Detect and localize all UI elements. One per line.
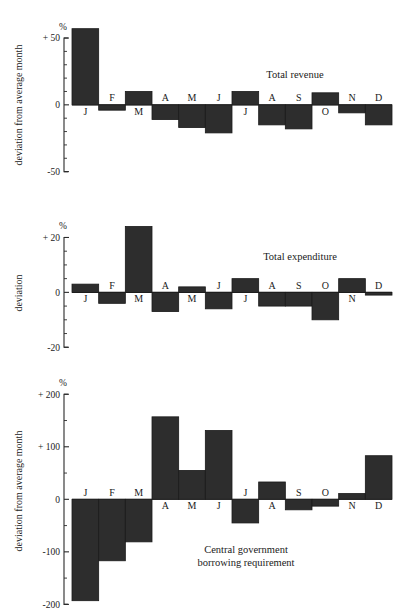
bar-0-M-2 [125, 91, 152, 104]
month-label-1-9: O [322, 280, 329, 291]
bar-0-D-11 [365, 105, 392, 125]
month-label-2-11: D [375, 500, 382, 511]
chart-panel-total-revenue: + 500-50%JFMAMJJASONDTotal revenuedeviat… [0, 0, 400, 205]
bar-0-N-10 [339, 105, 366, 113]
y-tick-label-2-0: + 200 [38, 390, 60, 400]
y-tick-label-2-3: -100 [43, 547, 61, 557]
month-label-2-10: N [348, 500, 355, 511]
y-tick-label-1-0: + 20 [43, 233, 60, 243]
bar-2-O-9 [312, 499, 339, 506]
chart-panel-borrowing-requirement: + 200+ 1000-100-200%JFMAMJJASONDCentral … [0, 363, 400, 616]
month-label-0-8: S [296, 92, 302, 103]
month-label-0-3: A [162, 92, 170, 103]
chart-svg-0: + 500-50%JFMAMJJASONDTotal revenuedeviat… [0, 0, 400, 205]
bar-1-A-3 [152, 292, 179, 311]
month-label-2-5: J [217, 500, 221, 511]
month-label-1-0: J [83, 293, 87, 304]
bar-0-O-9 [312, 93, 339, 105]
bar-1-N-10 [339, 279, 366, 293]
bar-2-F-1 [99, 499, 126, 560]
month-label-1-7: A [268, 280, 276, 291]
chart-panel-total-expenditure: + 200-20%JFMAMJJASONDTotal expenditurede… [0, 205, 400, 363]
month-label-2-4: M [188, 500, 197, 511]
bar-1-S-8 [285, 292, 312, 306]
bar-1-O-9 [312, 292, 339, 319]
y-tick-label-1-2: -20 [47, 343, 60, 353]
month-label-1-10: N [348, 293, 355, 304]
bar-2-A-7 [259, 482, 286, 499]
figure-bar-chart-triptych: + 500-50%JFMAMJJASONDTotal revenuedeviat… [0, 0, 400, 616]
y-tick-label-0-1: 0 [55, 100, 60, 110]
y-tick-label-0-0: + 50 [43, 33, 60, 43]
y-tick-label-2-2: 0 [55, 495, 60, 505]
month-label-1-1: F [109, 280, 115, 291]
bar-1-M-2 [125, 226, 152, 292]
bar-2-M-2 [125, 499, 152, 542]
bar-0-J-6 [232, 91, 259, 104]
month-label-1-2: M [134, 293, 143, 304]
y-tick-label-1-1: 0 [55, 288, 60, 298]
month-label-0-1: F [109, 92, 115, 103]
month-label-2-2: M [134, 487, 143, 498]
month-label-1-11: D [375, 280, 382, 291]
bar-1-J-5 [205, 292, 232, 308]
bar-1-F-1 [99, 292, 126, 303]
month-label-1-5: J [217, 280, 221, 291]
month-label-0-7: A [268, 92, 276, 103]
bar-2-N-10 [339, 494, 366, 500]
month-label-2-8: S [296, 487, 302, 498]
y-axis-label-0: deviation from average month [13, 45, 24, 166]
bar-2-D-11 [365, 456, 392, 500]
bar-2-S-8 [285, 499, 312, 510]
month-label-2-1: F [109, 487, 115, 498]
month-label-2-7: A [268, 500, 276, 511]
bar-2-M-4 [179, 470, 206, 499]
bar-2-J-0 [72, 499, 99, 600]
month-label-1-6: J [243, 293, 247, 304]
month-label-2-9: O [322, 487, 329, 498]
y-axis-unit-0: % [59, 22, 67, 32]
bar-0-A-3 [152, 105, 179, 120]
series-title-1: Total expenditure [263, 251, 337, 262]
month-label-1-8: S [296, 280, 302, 291]
month-label-2-6: J [243, 487, 247, 498]
series-title-0: Total revenue [266, 69, 324, 80]
month-label-0-5: J [217, 92, 221, 103]
month-label-0-10: N [348, 92, 355, 103]
y-tick-label-0-2: -50 [47, 167, 60, 177]
month-label-0-11: D [375, 92, 382, 103]
month-label-1-4: M [188, 293, 197, 304]
month-label-0-4: M [188, 92, 197, 103]
y-tick-label-2-1: + 100 [38, 442, 60, 452]
month-label-0-6: J [243, 106, 247, 117]
bar-1-J-6 [232, 279, 259, 293]
chart-svg-2: + 200+ 1000-100-200%JFMAMJJASONDCentral … [0, 363, 400, 616]
bar-0-S-8 [285, 105, 312, 129]
bar-0-M-4 [179, 105, 206, 128]
bar-1-A-7 [259, 292, 286, 306]
month-label-0-0: J [83, 106, 87, 117]
month-label-0-2: M [134, 106, 143, 117]
bar-2-A-3 [152, 417, 179, 499]
series-title-line-2-0: Central government [204, 544, 288, 555]
month-label-0-9: O [322, 106, 329, 117]
chart-svg-1: + 200-20%JFMAMJJASONDTotal expenditurede… [0, 205, 400, 363]
bar-1-M-4 [179, 287, 206, 292]
y-axis-label-1: deviation [13, 274, 24, 311]
y-tick-label-2-4: -200 [43, 600, 61, 610]
bar-2-J-5 [205, 431, 232, 500]
y-axis-unit-2: % [59, 378, 67, 388]
month-label-2-0: J [83, 487, 87, 498]
bar-0-J-0 [72, 29, 99, 105]
bar-1-J-0 [72, 284, 99, 292]
series-title-line-2-1: borrowing requirement [197, 557, 294, 568]
y-axis-label-2: deviation from average month [13, 431, 24, 552]
y-axis-unit-1: % [59, 221, 67, 231]
bar-2-J-6 [232, 499, 259, 523]
bar-1-D-11 [365, 292, 392, 295]
bar-0-F-1 [99, 105, 126, 110]
bar-0-J-5 [205, 105, 232, 133]
month-label-1-3: A [162, 280, 170, 291]
series-title-2: Central governmentborrowing requirement [197, 544, 294, 568]
month-label-2-3: A [162, 500, 170, 511]
